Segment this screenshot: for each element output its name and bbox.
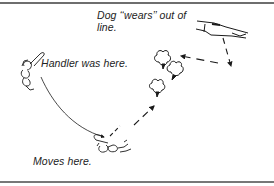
caption-dog-wears-line2: line. [97, 21, 186, 33]
handler-move-curve [41, 77, 104, 137]
sheep-3 [149, 79, 164, 97]
diagram-frame: Dog ‘‘wears’’ out of line. Handler was h… [0, 0, 274, 186]
caption-handler-was-here: Handler was here. [41, 57, 128, 69]
caption-dog-wears-line1: Dog ‘‘wears’’ out of [97, 9, 186, 21]
handler-end-figure [94, 135, 131, 152]
caption-moves-here: Moves here. [33, 155, 92, 167]
dog-out-of-line-figure [196, 21, 248, 38]
caption-dog-wears: Dog ‘‘wears’’ out of line. [97, 9, 186, 33]
sheep-2 [167, 61, 183, 80]
dog-wear-path [110, 38, 231, 136]
sheep-group-figure [149, 51, 183, 97]
